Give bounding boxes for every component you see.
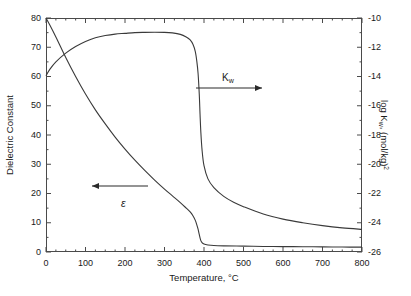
y-left-tick-label: 30 <box>31 160 41 169</box>
y-left-tick-label: 60 <box>31 72 41 81</box>
x-tick-label: 0 <box>44 259 49 268</box>
x-axis-title: Temperature, °C <box>46 272 362 283</box>
epsilon-annotation-text: ε <box>121 197 126 209</box>
y-axis-right-title-tail: , (mol/kg) <box>379 127 390 167</box>
x-tick-label: 100 <box>78 259 93 268</box>
y-left-tick-label: 0 <box>36 248 41 257</box>
x-tick-label: 200 <box>118 259 133 268</box>
x-tick-label: 700 <box>315 259 330 268</box>
curve-log-kw <box>46 32 362 229</box>
chart-canvas <box>0 0 411 296</box>
y-axis-right-title-superscript: 2 <box>383 166 390 170</box>
data-curves <box>46 18 362 247</box>
axis-ticks <box>46 18 362 252</box>
curve-dielectric-constant <box>46 18 362 247</box>
y-axis-right-title-main: log K <box>379 100 390 122</box>
y-left-tick-label: 20 <box>31 189 41 198</box>
y-left-tick-label: 50 <box>31 101 41 110</box>
x-tick-label: 400 <box>197 259 212 268</box>
y-axis-left-title-text: Dielectric Constant <box>4 95 15 175</box>
chart-figure: 0100200300400500600700800 01020304050607… <box>0 0 411 296</box>
epsilon-annotation-label: ε <box>121 197 126 209</box>
x-tick-label: 600 <box>276 259 291 268</box>
x-tick-label: 800 <box>355 259 370 268</box>
kw-annotation-subscript: w <box>229 77 234 84</box>
kw-annotation-main: K <box>222 72 229 83</box>
x-tick-label: 300 <box>157 259 172 268</box>
y-left-tick-label: 70 <box>31 43 41 52</box>
y-axis-left-title: Dielectric Constant <box>4 18 15 252</box>
y-left-tick-label: 80 <box>31 14 41 23</box>
x-tick-label: 500 <box>236 259 251 268</box>
x-axis-title-text: Temperature, °C <box>169 272 238 283</box>
kw-annotation-label: Kw <box>222 72 234 84</box>
annotation-arrows <box>92 88 262 186</box>
y-left-tick-label: 40 <box>31 131 41 140</box>
y-left-tick-label: 10 <box>31 218 41 227</box>
y-axis-right-title: log Kw, (mol/kg)2 <box>378 18 390 252</box>
